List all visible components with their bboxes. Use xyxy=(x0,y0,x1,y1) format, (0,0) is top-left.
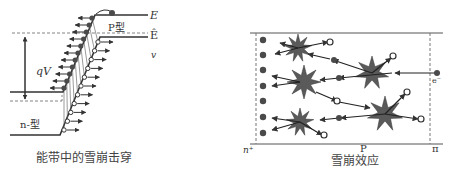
band-particles xyxy=(50,10,115,132)
trajectory-arrow xyxy=(339,102,370,108)
label-n-region: n-型 xyxy=(20,118,40,130)
label-p: P xyxy=(360,143,367,154)
trajectory-arrow xyxy=(308,54,330,59)
transition-line xyxy=(89,25,94,51)
collected-electron xyxy=(260,98,266,104)
electron xyxy=(64,78,69,83)
label-pi: π xyxy=(432,143,439,154)
hole xyxy=(65,119,69,123)
hole xyxy=(89,57,93,61)
electron xyxy=(89,15,94,20)
electron xyxy=(75,50,80,55)
electron xyxy=(81,36,86,41)
collected-electron xyxy=(260,83,266,89)
transition-line xyxy=(78,53,81,86)
electron xyxy=(87,22,92,27)
collected-electron xyxy=(260,37,266,43)
right-caption: 雪崩效应 xyxy=(331,153,379,168)
transition-line xyxy=(67,81,68,121)
label-valence-band: v xyxy=(151,50,156,60)
electron xyxy=(336,75,342,81)
electron xyxy=(78,43,83,48)
diagram-canvas: E Ê v P型 qV n-型 能带中的雪崩击穿 n⁺ P π e⁻ 雪崩效应 xyxy=(0,0,455,178)
transition-line xyxy=(70,74,71,112)
electron xyxy=(73,57,78,62)
collected-electron xyxy=(260,67,266,73)
hole xyxy=(69,110,73,114)
hole xyxy=(321,132,327,138)
label-electron: e⁻ xyxy=(432,76,441,85)
trajectory-arrow xyxy=(385,94,405,114)
transition-line xyxy=(86,32,91,60)
transition-line xyxy=(92,18,98,42)
electron xyxy=(61,85,66,90)
hole xyxy=(75,93,79,97)
hole xyxy=(79,84,83,88)
transition-line xyxy=(84,39,88,68)
label-fermi-level: Ê xyxy=(150,28,158,42)
label-qv: qV xyxy=(36,65,52,78)
ionization-star xyxy=(355,56,388,88)
transition-line xyxy=(72,67,74,104)
transition-line xyxy=(81,46,85,77)
hole xyxy=(82,75,86,79)
incoming-electron xyxy=(109,10,115,16)
hole xyxy=(334,98,340,104)
electron xyxy=(331,57,337,63)
electron xyxy=(70,64,75,69)
electron xyxy=(84,29,89,34)
electron xyxy=(336,115,342,121)
hole xyxy=(390,53,396,59)
electron xyxy=(67,71,72,76)
collected-electron xyxy=(260,130,266,136)
hole xyxy=(418,116,424,122)
label-p-region: P型 xyxy=(108,21,125,33)
band-diagram: E Ê v P型 qV n-型 能带中的雪崩击穿 xyxy=(10,9,158,165)
collected-electron xyxy=(260,52,266,58)
label-conduction-band: E xyxy=(149,9,158,22)
avalanche-particles xyxy=(260,34,440,138)
hole xyxy=(327,39,333,45)
collected-electron xyxy=(260,114,266,120)
hole xyxy=(86,66,90,70)
ionization-star xyxy=(287,65,321,99)
avalanche-diagram: n⁺ P π e⁻ 雪崩效应 xyxy=(243,33,443,168)
label-n-plus: n⁺ xyxy=(243,145,254,155)
transition-line xyxy=(75,60,77,95)
hole xyxy=(92,49,96,53)
hole xyxy=(72,101,76,105)
hole xyxy=(96,40,100,44)
left-caption: 能带中的雪崩击穿 xyxy=(36,150,132,165)
hole xyxy=(62,128,66,132)
hole xyxy=(404,89,410,95)
